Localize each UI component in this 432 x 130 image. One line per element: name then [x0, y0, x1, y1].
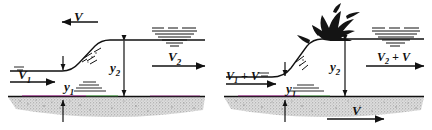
left-bed-hatch-symbol — [74, 82, 106, 91]
right-y2-label: y2 — [330, 60, 340, 76]
left-panel-group — [8, 22, 205, 122]
left-v2-label: V2 — [168, 50, 181, 66]
right-v2-label: V2 + V — [377, 51, 410, 67]
left-v1-label: V1 — [18, 68, 31, 84]
left-bed — [8, 96, 205, 117]
left-water-hatch-symbol — [152, 28, 197, 46]
left-y2-label: y2 — [110, 61, 120, 77]
right-bed — [224, 96, 424, 117]
right-bed-velocity-label: V — [352, 104, 361, 117]
right-water-hatch-symbol — [372, 28, 420, 46]
figure-canvas: V V1 V2 y1 y2 V1 + V V2 + V y1 y2 V — [0, 0, 432, 130]
left-y1-label: y1 — [64, 80, 74, 96]
hydraulic-jump-svg — [0, 0, 432, 130]
right-upstream-surface-hatch — [258, 73, 269, 76]
left-surge-velocity-label: V — [74, 10, 83, 23]
right-y1-label: y1 — [286, 82, 296, 98]
right-breaking-wave-splash — [297, 3, 360, 44]
right-v1-label: V1 + V — [226, 70, 259, 86]
